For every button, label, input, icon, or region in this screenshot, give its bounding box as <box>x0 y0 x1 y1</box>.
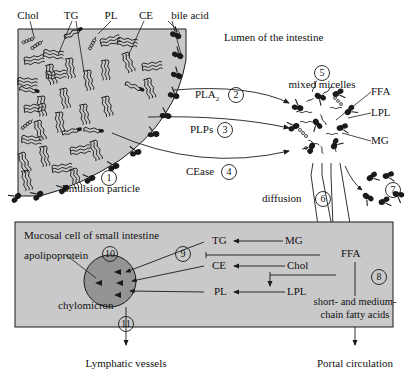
label-diffusion: diffusion <box>262 193 302 204</box>
step-5: 5 <box>320 68 325 78</box>
step-1: 1 <box>107 173 112 183</box>
free-bile-acids <box>359 171 405 210</box>
label-enzyme-pla2: PLA2 <box>195 89 219 103</box>
reaction-substrate-chol: Chol <box>287 260 308 271</box>
label-short-chain-line1: short- and medium- <box>314 297 397 308</box>
region-label-lumen: Lumen of the intestine <box>224 32 323 43</box>
step-7: 7 <box>391 185 396 195</box>
label-chylomicron: chylomicron <box>58 300 114 311</box>
reaction-product-pl: PL <box>214 286 227 297</box>
label-pl: PL <box>105 10 118 21</box>
enzyme-pla2-name: PLA <box>195 88 216 100</box>
step-2: 2 <box>234 90 239 100</box>
label-mixed-micelles: mixed micelles <box>289 79 356 90</box>
reaction-product-tg: TG <box>212 235 227 246</box>
reaction-product-ce: CE <box>212 260 226 271</box>
region-label-mucosal-cell: Mucosal cell of small intestine <box>24 230 159 241</box>
label-tg: TG <box>64 10 79 21</box>
label-apolipoprotein: apolipoprotein <box>24 250 88 261</box>
diagram-root: Chol TG PL CE bile acid Lumen of the int… <box>0 0 408 383</box>
enzyme-pla2-subscript: 2 <box>216 95 220 103</box>
label-short-chain-line2: chain fatty acids <box>321 310 390 321</box>
micelle-label-mg: MG <box>371 135 389 146</box>
reaction-substrate-mg: MG <box>285 235 303 246</box>
step-9: 9 <box>181 249 186 259</box>
micelle-label-ffa: FFA <box>371 86 390 97</box>
micelle-label-leaders <box>336 92 371 141</box>
step-11: 11 <box>121 319 131 329</box>
label-chol: Chol <box>17 10 38 21</box>
step-8: 8 <box>377 272 382 282</box>
output-lymphatic-vessels: Lymphatic vessels <box>86 358 167 369</box>
label-enzyme-plps: PLPs <box>190 124 213 135</box>
micelle-label-lpl: LPL <box>371 107 391 118</box>
output-portal-circulation: Portal circulation <box>317 358 393 369</box>
label-emulsion-particle: Emulsion particle <box>62 183 140 194</box>
label-bile-acid: bile acid <box>171 10 209 21</box>
step-3: 3 <box>223 125 228 135</box>
label-ffa-cell: FFA <box>341 248 360 259</box>
step-10: 10 <box>105 249 115 259</box>
reaction-substrate-lpl: LPL <box>287 286 307 297</box>
mixed-micelle-shape <box>286 80 359 155</box>
step-4: 4 <box>227 167 232 177</box>
label-enzyme-cease: CEase <box>186 166 214 177</box>
label-ce: CE <box>139 10 153 21</box>
step-6: 6 <box>321 194 326 204</box>
